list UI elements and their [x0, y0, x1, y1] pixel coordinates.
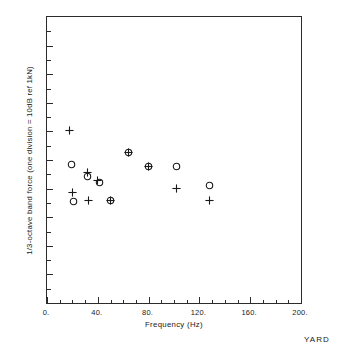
data-point-circle [144, 162, 153, 171]
y-axis-tick-minor [47, 146, 51, 147]
x-axis-tick-minor [212, 300, 213, 304]
y-axis-tick-minor [47, 289, 51, 290]
x-axis-tick-minor [288, 300, 289, 304]
data-point-circle [95, 178, 104, 187]
data-point-plus [172, 184, 181, 193]
data-point-plus [93, 176, 102, 185]
data-point-plus [84, 196, 93, 205]
x-axis-title: Frequency (Hz) [46, 320, 302, 329]
x-axis-tick-label: 40. [91, 308, 102, 317]
x-axis-tick-major [301, 297, 302, 303]
data-point-plus [124, 148, 133, 157]
x-axis-tick-major [47, 297, 48, 303]
data-point-plus [83, 168, 92, 177]
x-axis-tick-major [98, 297, 99, 303]
data-point-plus [205, 196, 214, 205]
x-axis-tick-minor [225, 300, 226, 304]
y-axis-tick-major [47, 274, 53, 275]
y-axis-tick-major [47, 103, 53, 104]
x-axis-tick-minor [174, 300, 175, 304]
data-points-layer [47, 17, 301, 303]
x-axis-tick-label: 0. [43, 308, 50, 317]
y-axis-tick-minor [47, 60, 51, 61]
data-point-circle [172, 162, 181, 171]
y-axis-tick-major [47, 189, 53, 190]
scatter-plot-figure: Frequency (Hz) 1/3-octave band force (on… [0, 0, 338, 351]
x-axis-tick-major [250, 297, 251, 303]
y-axis-tick-minor [47, 174, 51, 175]
data-point-plus [144, 162, 153, 171]
y-axis-tick-minor [47, 31, 51, 32]
y-axis-tick-minor [47, 260, 51, 261]
x-axis-tick-label: 120. [191, 308, 206, 317]
data-point-plus [68, 188, 77, 197]
data-point-circle [67, 160, 76, 169]
x-axis-tick-minor [72, 300, 73, 304]
y-axis-tick-major [47, 46, 53, 47]
y-axis-title: 1/3-octave band force (one division = 10… [25, 36, 34, 286]
data-point-circle [205, 181, 214, 190]
x-axis-tick-minor [187, 300, 188, 304]
y-axis-tick-major [47, 246, 53, 247]
x-axis-tick-minor [263, 300, 264, 304]
data-point-circle [106, 196, 115, 205]
x-axis-tick-minor [161, 300, 162, 304]
corner-note-yard: YARD [304, 335, 330, 344]
x-axis-tick-label: 200. [292, 308, 307, 317]
y-axis-tick-minor [47, 203, 51, 204]
x-axis-tick-minor [136, 300, 137, 304]
x-axis-tick-minor [238, 300, 239, 304]
x-axis-tick-label: 80. [142, 308, 153, 317]
x-axis-tick-minor [85, 300, 86, 304]
y-axis-tick-minor [47, 117, 51, 118]
data-point-plus [106, 196, 115, 205]
y-axis-tick-major [47, 217, 53, 218]
y-axis-tick-minor [47, 89, 51, 90]
plot-frame [46, 16, 302, 304]
y-axis-tick-major [47, 131, 53, 132]
y-axis-tick-minor [47, 232, 51, 233]
y-axis-tick-major [47, 160, 53, 161]
x-axis-tick-minor [111, 300, 112, 304]
data-point-circle [124, 148, 133, 157]
x-axis-tick-major [199, 297, 200, 303]
x-axis-tick-major [149, 297, 150, 303]
x-axis-tick-label: 160. [241, 308, 256, 317]
data-point-plus [65, 126, 74, 135]
y-axis-tick-major [47, 74, 53, 75]
x-axis-tick-minor [60, 300, 61, 304]
x-axis-tick-minor [123, 300, 124, 304]
data-point-circle [69, 197, 78, 206]
data-point-circle [83, 172, 92, 181]
x-axis-tick-minor [276, 300, 277, 304]
